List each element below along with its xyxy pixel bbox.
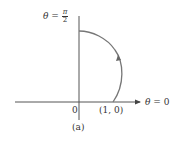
- curve: [79, 31, 122, 102]
- point-label: (1, 0): [99, 106, 123, 115]
- arrow-right-icon: [135, 100, 141, 105]
- theta-pi-over-2-label: θ = π 2: [43, 9, 68, 24]
- origin-label: 0: [72, 106, 78, 115]
- theta-zero-label: θ = 0: [145, 98, 169, 107]
- polar-diagram: [0, 0, 182, 148]
- caption: (a): [72, 123, 84, 132]
- curve-direction-arrow-icon: [116, 55, 121, 61]
